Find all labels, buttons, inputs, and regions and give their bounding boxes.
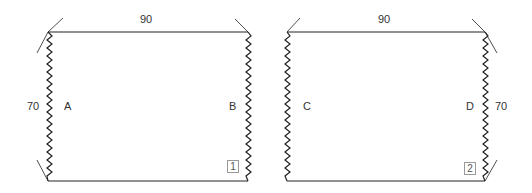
- panel-2-height-dimension: 70: [495, 100, 507, 112]
- panel-1-right-label: B: [229, 100, 236, 112]
- panel-2-left-label: C: [303, 100, 311, 112]
- pattern-diagram: [0, 0, 532, 193]
- panel-2-piece-number: 2: [464, 162, 476, 175]
- panel-1-width-dimension: 90: [140, 13, 152, 25]
- panel-1-left-label: A: [64, 100, 71, 112]
- panel-2-right-label: D: [466, 100, 474, 112]
- panel-1-piece-number: 1: [227, 160, 239, 173]
- panel-2-width-dimension: 90: [378, 13, 390, 25]
- panel-1-height-dimension: 70: [27, 100, 39, 112]
